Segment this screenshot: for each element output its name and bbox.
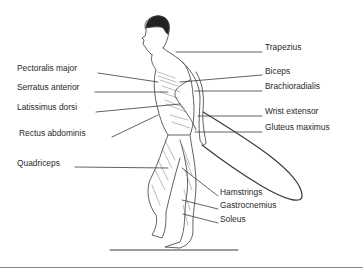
bottom-rule xyxy=(0,267,363,268)
muscle-label-soleus: Soleus xyxy=(220,214,246,224)
muscle-label-hamstrings: Hamstrings xyxy=(220,187,262,197)
muscle-label-pectoralis-major: Pectoralis major xyxy=(17,63,77,73)
muscle-label-rectus-abdominis: Rectus abdominis xyxy=(19,128,86,138)
muscle-label-latissimus-dorsi: Latissimus dorsi xyxy=(17,102,77,112)
muscle-label-serratus-anterior: Serratus anterior xyxy=(17,82,79,92)
muscle-label-brachioradialis: Brachioradialis xyxy=(265,81,320,91)
muscle-label-trapezius: Trapezius xyxy=(265,42,301,52)
torso xyxy=(151,48,194,135)
muscle-label-wrist-extensor: Wrist extensor xyxy=(265,106,318,116)
muscle-label-gastrocnemius: Gastrocnemius xyxy=(220,200,276,210)
muscle-label-biceps: Biceps xyxy=(265,66,290,76)
muscle-label-gluteus-maximus: Gluteus maximus xyxy=(265,122,330,132)
muscle-label-quadriceps: Quadriceps xyxy=(17,158,60,168)
